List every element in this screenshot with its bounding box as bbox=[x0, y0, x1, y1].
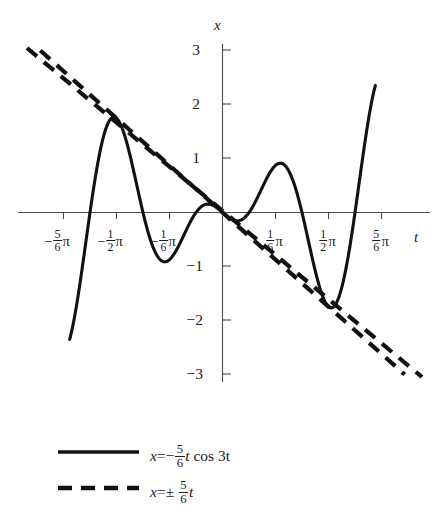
legend-fraction: 56 bbox=[179, 479, 188, 506]
tick-fraction: 12 bbox=[319, 228, 328, 253]
tick-sign: − bbox=[150, 233, 158, 249]
figure-container: x t 3 2 1 −1 −2 −3 −56π −12π −16π 16π 12… bbox=[0, 0, 442, 519]
y-tick-label-minus-3: −3 bbox=[187, 366, 204, 382]
tick-fraction: 12 bbox=[106, 228, 115, 253]
tick-fraction: 56 bbox=[372, 228, 381, 253]
tick-unit: π bbox=[116, 233, 123, 249]
tick-unit: π bbox=[328, 233, 335, 249]
legend-lhs: x bbox=[150, 447, 157, 464]
legend-equals: = bbox=[157, 447, 166, 464]
x-tick-label-pos-5-6-pi: 56π bbox=[371, 228, 389, 253]
x-tick-label-pos-1-6-pi: 16π bbox=[265, 228, 283, 253]
tick-sign: − bbox=[44, 233, 52, 249]
x-tick-label-neg-5-6-pi: −56π bbox=[44, 228, 70, 253]
x-axis-label: t bbox=[414, 230, 418, 245]
y-tick-label-1: 1 bbox=[192, 150, 200, 166]
legend-fraction: 56 bbox=[175, 443, 184, 470]
y-tick-label-minus-1: −1 bbox=[187, 258, 204, 274]
legend-variable: t bbox=[185, 447, 189, 464]
y-axis-label: x bbox=[214, 18, 221, 33]
x-tick-label-neg-1-6-pi: −16π bbox=[150, 228, 176, 253]
y-tick-label-minus-2: −2 bbox=[187, 312, 204, 328]
x-tick-label-neg-1-2-pi: −12π bbox=[97, 228, 123, 253]
x-tick-label-pos-1-2-pi: 12π bbox=[318, 228, 336, 253]
legend-equals: = bbox=[157, 483, 166, 500]
plot-canvas bbox=[0, 0, 442, 519]
legend-rest: cos 3t bbox=[193, 447, 230, 464]
tick-unit: π bbox=[63, 233, 70, 249]
tick-unit: π bbox=[381, 233, 388, 249]
legend-entry-dashed-formula: x=± 56t bbox=[150, 479, 193, 506]
legend-lhs: x bbox=[150, 483, 157, 500]
y-tick-label-3: 3 bbox=[192, 42, 200, 58]
tick-fraction: 56 bbox=[53, 228, 62, 253]
legend-sign: − bbox=[166, 447, 175, 464]
legend-entry-solid-formula: x=−56t cos 3t bbox=[150, 443, 230, 470]
legend-sign: ± bbox=[166, 483, 175, 500]
tick-fraction: 16 bbox=[266, 228, 275, 253]
tick-unit: π bbox=[169, 233, 176, 249]
y-tick-label-2: 2 bbox=[192, 96, 200, 112]
legend-variable: t bbox=[189, 483, 193, 500]
tick-sign: − bbox=[97, 233, 105, 249]
tick-fraction: 16 bbox=[159, 228, 168, 253]
tick-unit: π bbox=[275, 233, 282, 249]
